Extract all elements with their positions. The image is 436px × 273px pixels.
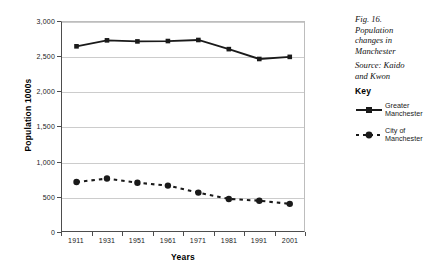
- x-tick-mark: [122, 232, 123, 236]
- data-point-marker: [195, 189, 201, 195]
- x-tick-mark: [92, 232, 93, 236]
- data-point-marker: [227, 47, 232, 52]
- x-tick-mark: [183, 232, 184, 236]
- y-tick-label-3000: 3,000: [9, 18, 55, 25]
- caption-line-3: changes in: [355, 35, 435, 46]
- series-greater-manchester: [74, 38, 292, 62]
- legend-item-city-of-manchester[interactable]: City of Manchester: [355, 127, 436, 144]
- x-tick-mark: [275, 232, 276, 236]
- legend-label-line-2: Manchester: [385, 110, 423, 118]
- data-point-marker: [104, 175, 110, 181]
- caption-source-line-2: and Kwon: [355, 71, 435, 82]
- y-tick-label-0: 0: [9, 229, 55, 236]
- caption-line-1: Fig. 16.: [355, 14, 435, 25]
- figure-population-changes-manchester: 3,000 2,500 2,000 1,500 1,000 500 0 Popu…: [0, 0, 436, 273]
- x-tick-label-2001: 2001: [270, 237, 310, 244]
- x-tick-mark: [244, 232, 245, 236]
- data-point-marker: [166, 39, 171, 44]
- series-layer: [61, 21, 305, 232]
- data-point-marker: [135, 39, 140, 44]
- caption-line-4: Manchester: [355, 46, 435, 57]
- data-point-marker: [74, 44, 79, 49]
- data-point-marker: [134, 180, 140, 186]
- data-point-marker: [256, 198, 262, 204]
- legend-key: Key Greater Manchester City of: [355, 86, 436, 152]
- data-point-marker: [257, 57, 262, 62]
- y-tick-label-500: 500: [9, 194, 55, 201]
- x-tick-mark: [305, 232, 306, 236]
- caption-line-2: Population: [355, 25, 435, 36]
- figure-caption: Fig. 16. Population changes in Mancheste…: [355, 14, 435, 85]
- x-tick-mark: [153, 232, 154, 236]
- legend-label-line-2: Manchester: [385, 135, 423, 143]
- data-point-marker: [165, 182, 171, 188]
- series-city-of-manchester: [73, 175, 293, 207]
- data-point-marker: [226, 196, 232, 202]
- data-point-marker: [287, 201, 293, 207]
- caption-source-line-1: Source: Kaido: [355, 60, 435, 71]
- y-axis-title: Population 1000s: [23, 40, 33, 190]
- legend-title: Key: [355, 86, 436, 96]
- data-point-marker: [73, 179, 79, 185]
- data-point-marker: [105, 38, 110, 43]
- legend-swatch-solid-square-icon: [355, 102, 383, 114]
- data-point-marker: [287, 55, 292, 60]
- x-tick-mark: [214, 232, 215, 236]
- series-line: [77, 40, 290, 59]
- x-tick-mark: [61, 232, 62, 236]
- x-axis-title: Years: [61, 252, 305, 262]
- legend-swatch-dashed-circle-icon: [355, 127, 383, 139]
- legend-item-greater-manchester[interactable]: Greater Manchester: [355, 102, 436, 119]
- data-point-marker: [196, 38, 201, 43]
